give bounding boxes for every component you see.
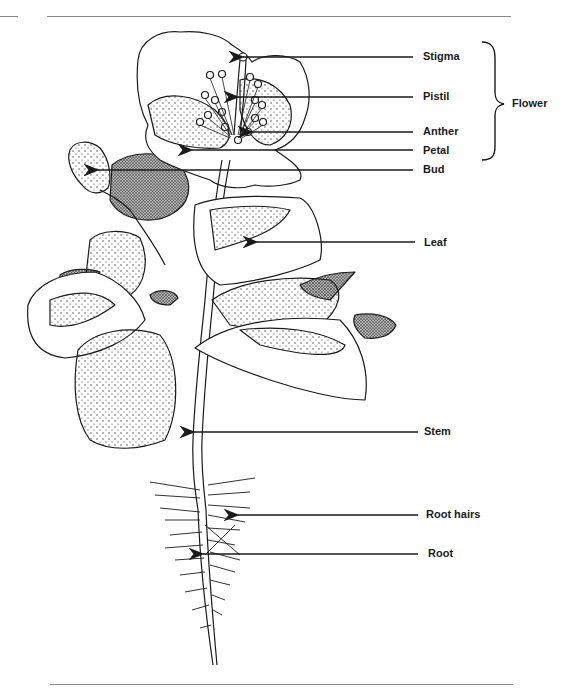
label-stem: Stem	[424, 425, 451, 438]
label-stigma: Stigma	[423, 50, 460, 63]
plant-illustration	[0, 0, 578, 695]
label-root: Root	[428, 547, 453, 560]
leaves	[28, 196, 367, 448]
label-leaf: Leaf	[424, 236, 447, 249]
label-flower-group: Flower	[512, 97, 547, 110]
label-anther: Anther	[423, 125, 458, 138]
label-petal: Petal	[423, 144, 449, 157]
plant-diagram: Stigma Pistil Anther Petal Bud Leaf Stem…	[0, 0, 578, 695]
root	[150, 478, 255, 665]
flower-brace	[482, 42, 504, 160]
label-root-hairs: Root hairs	[426, 508, 480, 521]
label-bud: Bud	[423, 163, 444, 176]
label-pistil: Pistil	[423, 90, 449, 103]
